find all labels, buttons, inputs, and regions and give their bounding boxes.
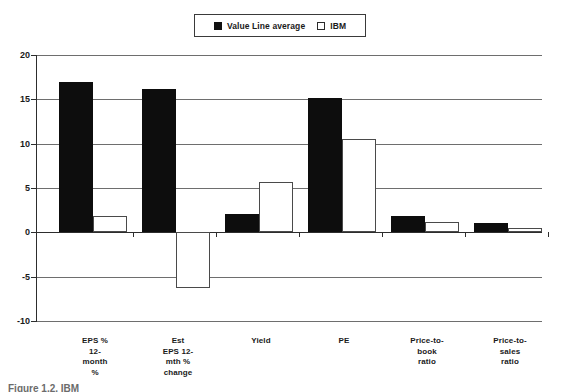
chart-legend: Value Line average IBM bbox=[194, 14, 366, 37]
x-axis-tick bbox=[216, 232, 217, 237]
y-axis-tick-label: 10 bbox=[20, 139, 30, 149]
y-axis-tick bbox=[31, 321, 37, 322]
x-axis-tick bbox=[548, 232, 549, 237]
y-axis-tick-label: -10 bbox=[17, 316, 30, 326]
figure-caption: Figure 1.2. IBM bbox=[8, 383, 79, 392]
x-axis-category-label: Yield bbox=[223, 336, 299, 347]
gridline bbox=[36, 55, 542, 56]
bar-ibm bbox=[342, 139, 376, 232]
open-square-icon bbox=[317, 22, 325, 30]
y-axis-tick-label: 15 bbox=[20, 94, 30, 104]
bar-ibm bbox=[93, 216, 127, 232]
y-axis-tick bbox=[31, 144, 37, 145]
y-axis-tick bbox=[31, 99, 37, 100]
gridline bbox=[36, 99, 542, 100]
x-axis-category-label: Price-to- book ratio bbox=[389, 336, 465, 368]
legend-label: IBM bbox=[330, 21, 346, 31]
y-axis-tick-label: -5 bbox=[22, 272, 30, 282]
gridline bbox=[36, 277, 542, 278]
y-axis-labels: 20151050-5-10 bbox=[0, 55, 30, 321]
bar-ibm bbox=[176, 232, 210, 288]
x-axis-category-label: Est EPS 12- mth % change bbox=[140, 336, 216, 378]
y-axis-tick bbox=[31, 188, 37, 189]
bar-value-line bbox=[59, 82, 93, 233]
bar-ibm bbox=[259, 182, 293, 233]
x-axis-origin-tick bbox=[36, 232, 37, 237]
x-axis-category-label: PE bbox=[306, 336, 382, 347]
y-axis-tick bbox=[31, 277, 37, 278]
zero-line bbox=[36, 232, 542, 233]
x-axis-tick bbox=[299, 232, 300, 237]
y-axis-tick-label: 20 bbox=[20, 50, 30, 60]
bar-value-line bbox=[474, 223, 508, 232]
y-axis-tick bbox=[31, 55, 37, 56]
legend-entry-ibm: IBM bbox=[317, 21, 346, 31]
bar-value-line bbox=[308, 98, 342, 232]
x-axis-tick bbox=[382, 232, 383, 237]
bar-value-line bbox=[391, 216, 425, 232]
y-axis-tick-label: 0 bbox=[25, 227, 30, 237]
gridline bbox=[36, 321, 542, 322]
bar-value-line bbox=[225, 214, 259, 233]
plot-area bbox=[36, 55, 542, 321]
legend-label: Value Line average bbox=[227, 21, 305, 31]
x-axis-tick bbox=[133, 232, 134, 237]
x-axis-tick bbox=[465, 232, 466, 237]
bar-ibm bbox=[425, 222, 459, 233]
x-axis-category-label: EPS % 12- month % bbox=[57, 336, 133, 378]
x-axis-labels: EPS % 12- month %Est EPS 12- mth % chang… bbox=[36, 336, 542, 384]
filled-square-icon bbox=[214, 22, 222, 30]
x-axis-category-label: Price-to- sales ratio bbox=[472, 336, 548, 368]
bar-value-line bbox=[142, 89, 176, 233]
gridline bbox=[36, 144, 542, 145]
legend-entry-value-line: Value Line average bbox=[214, 21, 305, 31]
y-axis-tick-label: 5 bbox=[25, 183, 30, 193]
bar-ibm bbox=[508, 228, 542, 232]
